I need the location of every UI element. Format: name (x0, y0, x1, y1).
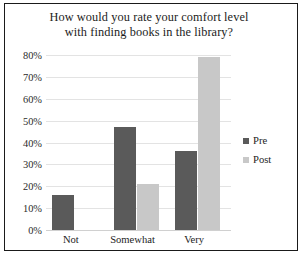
x-axis-tick-labels: NotSomewhatVery (46, 234, 231, 250)
bar-group (46, 55, 108, 230)
y-tick-label: 20% (6, 181, 42, 192)
legend-swatch-icon (243, 157, 249, 163)
bar-group (169, 55, 231, 230)
x-tick-label-somewhat: Somewhat (110, 234, 155, 245)
bar-post-very[interactable] (198, 57, 220, 230)
legend-item-post[interactable]: Post (243, 150, 295, 169)
bar-pre-somewhat[interactable] (114, 127, 136, 230)
gridline (46, 230, 231, 231)
chart-legend: PrePost (243, 131, 295, 169)
bar-group (108, 55, 170, 230)
chart-title-line-1: How would you rate your comfort level (14, 10, 284, 25)
bar-pre-very[interactable] (175, 151, 197, 230)
y-tick-label: 60% (6, 93, 42, 104)
y-axis-tick-labels: 0%10%20%30%40%50%60%70%80% (4, 55, 42, 230)
y-tick-label: 30% (6, 159, 42, 170)
y-tick-label: 40% (6, 137, 42, 148)
y-tick-label: 50% (6, 115, 42, 126)
plot-area (46, 55, 231, 230)
x-tick-label-not: Not (63, 234, 79, 245)
bar-post-somewhat[interactable] (137, 184, 159, 230)
legend-label: Post (253, 154, 271, 165)
y-tick-label: 70% (6, 71, 42, 82)
x-tick-label-very: Very (184, 234, 204, 245)
legend-label: Pre (253, 135, 267, 146)
y-tick-label: 80% (6, 50, 42, 61)
bar-pre-not[interactable] (52, 195, 74, 230)
chart-title: How would you rate your comfort level wi… (14, 10, 284, 39)
legend-swatch-icon (243, 138, 249, 144)
chart-title-line-2: with finding books in the library? (14, 25, 284, 40)
y-tick-label: 0% (6, 225, 42, 236)
chart-figure: How would you rate your comfort level wi… (0, 0, 303, 262)
y-tick-label: 10% (6, 203, 42, 214)
legend-item-pre[interactable]: Pre (243, 131, 295, 150)
